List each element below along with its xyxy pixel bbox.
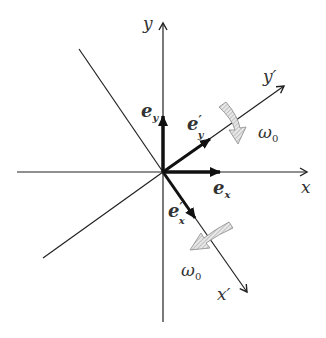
y-axis-label: y <box>142 13 153 33</box>
x-prime-axis-label: x′ <box>217 284 231 304</box>
e-x-label: ex <box>213 177 231 200</box>
rotation-arrow-icon <box>190 222 233 250</box>
e-y-prime-vector <box>163 139 210 172</box>
y-prime-axis-negative <box>43 172 163 258</box>
coordinate-diagram: y x y′ x′ ey ex e′y e′x ω0 ω0 <box>0 0 326 338</box>
rotation-arrow-icon <box>219 102 246 144</box>
omega-label-lower: ω0 <box>181 260 201 282</box>
e-y-prime-label: e′y <box>187 113 205 140</box>
e-x-prime-label: e′x <box>168 200 186 226</box>
x-axis-label: x <box>301 177 311 197</box>
omega-label-upper: ω0 <box>258 122 278 144</box>
e-y-label: ey <box>141 100 159 123</box>
y-prime-axis-label: y′ <box>262 66 277 86</box>
